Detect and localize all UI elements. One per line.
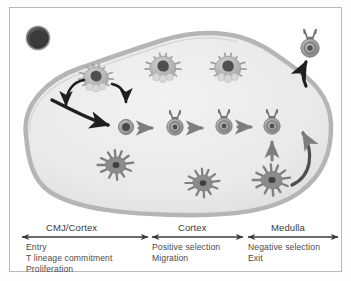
mature-t-cell-exiting (301, 30, 319, 58)
region-event-proliferation: Proliferation (26, 264, 73, 275)
region-title-medulla: Medulla (271, 222, 305, 233)
region-event-exit: Exit (248, 253, 263, 264)
progenitor-cell (27, 27, 50, 50)
early-thymocyte (118, 119, 133, 134)
region-title-cortex: Cortex (178, 222, 207, 233)
region-title-cmj-cortex: CMJ/Cortex (46, 222, 97, 233)
region-event-entry: Entry (26, 242, 47, 253)
diagram-artwork (0, 0, 351, 281)
thymocyte-development-figure: CMJ/Cortex Entry T lineage commitment Pr… (0, 0, 351, 281)
region-event-migration: Migration (152, 253, 188, 264)
region-event-positive-selection: Positive selection (152, 242, 220, 253)
region-event-t-lineage-commitment: T lineage commitment (26, 253, 112, 264)
region-event-negative-selection: Negative selection (248, 242, 320, 253)
